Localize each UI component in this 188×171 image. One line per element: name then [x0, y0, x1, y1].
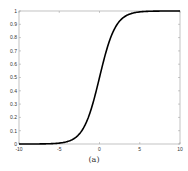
y-tick-label: 0.6 — [10, 61, 17, 67]
figure-caption: (a) — [0, 155, 188, 164]
x-tick-label: 5 — [138, 146, 141, 152]
y-tick-label: 0.9 — [10, 21, 17, 27]
y-tick-label: 0.7 — [10, 48, 17, 54]
y-tick-label: 0.4 — [10, 88, 17, 94]
x-tick-label: -10 — [15, 146, 22, 152]
x-tick-label: -5 — [57, 146, 62, 152]
y-tick-label: 0.1 — [10, 128, 17, 134]
y-tick-label: 0.2 — [10, 114, 17, 120]
y-tick-label: 0.3 — [10, 101, 17, 107]
sigmoid-chart: 00.10.20.30.40.50.60.70.80.91 -10-50510 — [0, 0, 188, 171]
y-tick-label: 0.8 — [10, 34, 17, 40]
y-tick-label: 1 — [14, 8, 17, 14]
x-tick-label: 0 — [98, 146, 101, 152]
x-tick-label: 10 — [177, 146, 183, 152]
y-tick-label: 0.5 — [10, 74, 17, 80]
